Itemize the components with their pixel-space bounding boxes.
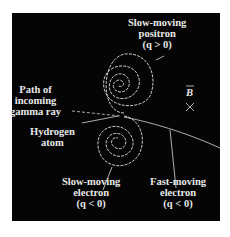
fast-electron-label: Fast-moving electron (q < 0): [150, 176, 206, 209]
hydrogen-pointer: [82, 116, 118, 123]
slow-electron-label: Slow-moving electron (q < 0): [62, 176, 120, 209]
gamma-ray-path: [72, 111, 120, 116]
magnetic-field-label: B: [186, 87, 193, 98]
fast-electron-track: [124, 117, 220, 148]
positron-pointer: [156, 56, 164, 60]
hydrogen-atom-label: Hydrogen atom: [30, 126, 75, 148]
b-field-cross-icon: [186, 103, 194, 111]
positron-spiral-track: [104, 54, 153, 113]
gamma-ray-label: Path of incoming gamma ray: [10, 84, 61, 117]
positron-label: Slow-moving positron (q > 0): [128, 17, 186, 50]
electron-spiral-track: [98, 116, 143, 166]
